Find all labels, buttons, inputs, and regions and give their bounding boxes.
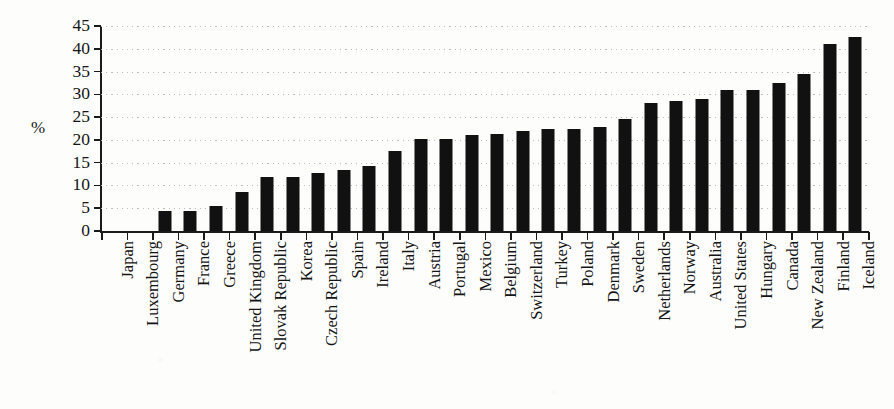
bar-slot (152, 26, 178, 231)
bar (721, 90, 734, 231)
bar-slot (229, 26, 255, 231)
bar-slot (254, 26, 280, 231)
y-axis-tick-label: 40 (73, 40, 91, 58)
y-axis-tick (94, 94, 101, 96)
y-axis-tick (94, 48, 101, 50)
x-axis-tick (740, 232, 742, 240)
y-axis-tick (94, 162, 101, 164)
bar (516, 131, 529, 231)
x-axis-label: Greece (222, 241, 239, 288)
y-axis-tick-label: 10 (73, 177, 91, 195)
x-axis-label: Luxembourg (145, 241, 162, 326)
x-axis-tick (433, 232, 435, 240)
x-axis-label: Finland (836, 241, 853, 291)
x-axis-label: Belgium (503, 241, 520, 298)
x-axis-tick (280, 232, 282, 240)
bar (491, 134, 504, 231)
bar-slot (715, 26, 741, 231)
x-axis-tick (715, 232, 717, 240)
bar-slot (791, 26, 817, 231)
x-axis-label: Slovak Republic (273, 241, 290, 351)
x-axis-label: Sweden (631, 241, 648, 293)
bar (849, 37, 862, 231)
bar (440, 139, 453, 231)
x-axis-tick (408, 232, 410, 240)
y-axis-tick (94, 71, 101, 73)
x-axis-tick (357, 232, 359, 240)
x-axis-tick (612, 232, 614, 240)
bar-series (101, 26, 868, 231)
bar-slot (280, 26, 306, 231)
bar-slot (587, 26, 613, 231)
x-axis-tick (127, 232, 129, 240)
x-axis-tick (663, 232, 665, 240)
x-axis-tick (536, 232, 538, 240)
x-axis-tick (306, 232, 308, 240)
x-axis-label: Czech Republic (324, 241, 341, 346)
bar-slot (842, 26, 868, 231)
bar-slot (638, 26, 664, 231)
x-axis-label: Australia (708, 241, 725, 301)
bar-slot (663, 26, 689, 231)
x-axis-label: Hungary (759, 241, 776, 299)
bar (644, 103, 657, 231)
bar-slot (612, 26, 638, 231)
bar-slot (561, 26, 587, 231)
x-axis-tick (229, 232, 231, 240)
x-axis-label: Netherlands (657, 241, 674, 321)
plot-area: 051015202530354045 (101, 26, 868, 231)
bar-slot (536, 26, 562, 231)
bar-slot (127, 26, 153, 231)
bar (363, 166, 376, 231)
y-axis-tick-label: 30 (73, 86, 91, 104)
x-axis-label: New Zealand (810, 241, 827, 329)
bar-slot (408, 26, 434, 231)
bar (823, 44, 836, 231)
bar-slot (766, 26, 792, 231)
y-axis-tick-label: 5 (81, 199, 90, 217)
x-axis-tick (101, 232, 103, 240)
x-axis-label: Korea (299, 241, 316, 281)
bar-slot (101, 26, 127, 231)
x-axis-tick (842, 232, 844, 240)
bar (567, 129, 580, 232)
bar (337, 170, 350, 231)
y-axis-tick-label: 35 (73, 63, 91, 81)
x-axis-label: Italy (401, 241, 418, 271)
x-axis-label: Germany (171, 241, 188, 302)
bar (772, 83, 785, 232)
x-axis-tick (766, 232, 768, 240)
bar (798, 74, 811, 231)
x-axis-label: United States (733, 241, 750, 329)
bar (619, 119, 632, 231)
bar (235, 192, 248, 231)
y-axis-tick (94, 116, 101, 118)
bar (158, 211, 171, 232)
x-axis-tick (689, 232, 691, 240)
y-axis-tick (94, 139, 101, 141)
bar (312, 173, 325, 231)
y-axis-tick-label: 0 (81, 222, 90, 240)
bar-slot (510, 26, 536, 231)
x-axis-tick (178, 232, 180, 240)
x-axis-label: France (196, 241, 213, 286)
bar-slot (382, 26, 408, 231)
chart-page: % 051015202530354045 JapanLuxembourgGerm… (0, 0, 894, 409)
bar-slot (459, 26, 485, 231)
bar-slot (740, 26, 766, 231)
x-axis-tick (331, 232, 333, 240)
bar-slot (203, 26, 229, 231)
bar (389, 151, 402, 231)
bar (542, 129, 555, 232)
bar-slot (689, 26, 715, 231)
bar-slot (485, 26, 511, 231)
x-axis-label: Denmark (606, 241, 623, 302)
bar (593, 127, 606, 231)
bar (414, 139, 427, 231)
x-axis-label: Austria (427, 241, 444, 290)
y-axis-tick (94, 185, 101, 187)
x-axis-label: Iceland (861, 241, 878, 290)
bar (746, 90, 759, 231)
y-axis-tick (94, 207, 101, 209)
x-axis-label: Poland (580, 241, 597, 287)
